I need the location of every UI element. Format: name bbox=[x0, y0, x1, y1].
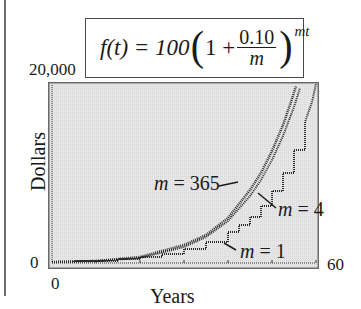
label-m365: m = 365 bbox=[154, 172, 220, 195]
formula: f(t) = 100 ( 1 + 0.10 m ) mt bbox=[100, 27, 310, 68]
formula-numerator: 0.10 bbox=[237, 27, 276, 48]
label-m1: m = 1 bbox=[240, 240, 286, 263]
formula-one-plus: 1 + bbox=[205, 35, 235, 61]
right-paren: ) bbox=[279, 25, 292, 67]
left-paren: ( bbox=[191, 25, 204, 67]
formula-exponent: mt bbox=[295, 23, 310, 40]
formula-lhs: f(t) = 100 bbox=[100, 35, 190, 61]
formula-denominator: m bbox=[249, 48, 263, 68]
y-tick-zero: 0 bbox=[30, 253, 39, 273]
x-tick-zero: 0 bbox=[51, 274, 60, 294]
label-m4: m = 4 bbox=[278, 198, 324, 221]
y-axis-label: Dollars bbox=[27, 122, 50, 202]
formula-box: f(t) = 100 ( 1 + 0.10 m ) mt bbox=[85, 18, 304, 78]
y-tick-max: 20,000 bbox=[29, 60, 76, 80]
x-tick-max: 60 bbox=[327, 255, 344, 275]
x-axis-label: Years bbox=[150, 285, 195, 308]
page-margin-rule bbox=[4, 0, 6, 296]
formula-fraction: 0.10 m bbox=[237, 27, 276, 68]
